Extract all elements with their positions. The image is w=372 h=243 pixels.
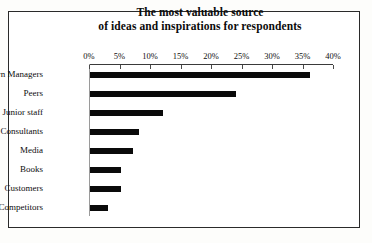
x-tick-label: 25% (234, 51, 250, 61)
figure-canvas: The most valuable source of ideas and in… (0, 0, 372, 243)
chart-title: The most valuable source of ideas and in… (60, 6, 340, 33)
x-tick-label: 20% (203, 51, 219, 61)
chart-title-line-2: of ideas and inspirations for respondent… (60, 20, 340, 34)
x-tick-label: 30% (264, 51, 280, 61)
bar (90, 148, 133, 154)
x-tick (333, 65, 334, 69)
plot-area: 0%5%10%15%20%25%30%35%40% Own ManagersPe… (89, 64, 333, 216)
bar (90, 110, 163, 116)
category-label: Customers (0, 183, 43, 193)
category-label: Books (0, 164, 43, 174)
bar-row: Books (89, 161, 333, 180)
category-label: Own Managers (0, 69, 43, 79)
bar-row: Consultants (89, 123, 333, 142)
bar (90, 91, 236, 97)
bar-row: Junior staff (89, 104, 333, 123)
x-tick-label: 5% (114, 51, 125, 61)
bar (90, 186, 121, 192)
chart-title-line-1: The most valuable source (60, 6, 340, 20)
x-tick-label: 0% (83, 51, 94, 61)
x-tick-label: 15% (173, 51, 189, 61)
category-label: Consultants (0, 126, 43, 136)
bar-row: Media (89, 142, 333, 161)
category-label: Junior staff (0, 107, 43, 117)
bar (90, 72, 310, 78)
bar (90, 205, 108, 211)
category-label: Peers (0, 88, 43, 98)
category-label: Media (0, 145, 43, 155)
bar-row: Peers (89, 85, 333, 104)
bar-row: Competitors (89, 199, 333, 218)
bar (90, 167, 121, 173)
x-tick-label: 10% (142, 51, 158, 61)
x-tick-label: 40% (325, 51, 341, 61)
x-tick-label: 35% (295, 51, 311, 61)
bar-row: Customers (89, 180, 333, 199)
bar-row: Own Managers (89, 66, 333, 85)
category-label: Competitors (0, 202, 43, 212)
bar (90, 129, 139, 135)
